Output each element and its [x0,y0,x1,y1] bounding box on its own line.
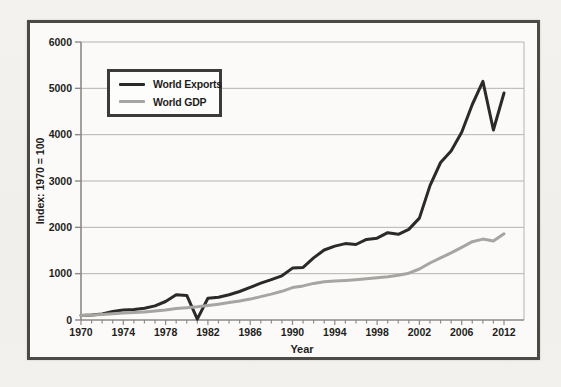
x-tick-label-2012: 2012 [492,326,516,338]
x-tick-label-1978: 1978 [154,326,178,338]
legend-label-world-gdp: World GDP [153,96,206,108]
y-tick-label-4000: 4000 [49,128,73,140]
y-tick-label-2000: 2000 [49,221,73,233]
legend-item-world-exports: World Exports [119,78,219,90]
x-tick-label-1982: 1982 [196,326,220,338]
x-tick-label-1994: 1994 [323,326,347,338]
series-line-world-exports [81,81,504,319]
legend-label-world-exports: World Exports [153,78,222,90]
legend-item-world-gdp: World GDP [119,96,219,108]
series-line-world-gdp [81,234,504,316]
world-gdp-line-swatch [119,100,145,103]
y-tick-label-0: 0 [66,314,72,326]
x-tick-label-2002: 2002 [408,326,432,338]
data-series [81,81,504,319]
y-axis-title: Index: 1970 = 100 [34,138,46,225]
y-tick-label-6000: 6000 [49,36,73,48]
x-tick-label-1974: 1974 [112,326,136,338]
x-axis-title: Year [290,343,314,355]
world-exports-line-swatch [119,83,145,86]
x-tick-label-1990: 1990 [281,326,305,338]
x-tick-label-1998: 1998 [365,326,389,338]
y-tick-label-5000: 5000 [49,82,73,94]
x-tick-label-2006: 2006 [450,326,474,338]
y-tick-label-3000: 3000 [49,175,73,187]
figure: 0100020003000400050006000197019741978198… [0,0,561,387]
chart-legend: World Exports World GDP [107,69,222,117]
chart-frame: 0100020003000400050006000197019741978198… [27,20,540,360]
y-tick-label-1000: 1000 [49,267,73,279]
x-tick-label-1970: 1970 [69,326,93,338]
x-tick-label-1986: 1986 [239,326,263,338]
